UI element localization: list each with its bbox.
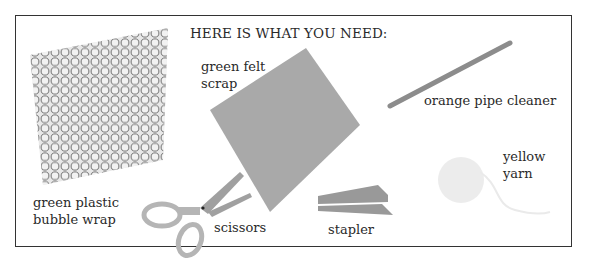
label-felt-scrap: green felt scrap xyxy=(201,58,265,92)
stapler-icon xyxy=(318,185,393,215)
label-yarn: yellow yarn xyxy=(503,148,545,182)
label-scissors: scissors xyxy=(214,219,266,236)
label-stapler: stapler xyxy=(328,221,374,238)
bubble-wrap-icon xyxy=(30,28,168,185)
label-bubble-wrap: green plastic bubble wrap xyxy=(33,194,119,228)
label-pipe-cleaner: orange pipe cleaner xyxy=(424,92,556,109)
scissors-icon xyxy=(144,172,252,259)
